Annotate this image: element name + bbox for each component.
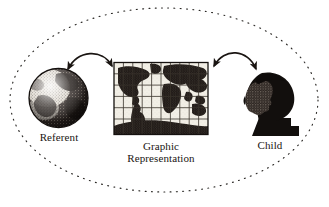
diagram-canvas: Referent Graphic Representation Child (0, 0, 329, 207)
arrow-map-to-child (214, 53, 256, 69)
node-label-graphic-representation: Graphic Representation (113, 140, 209, 164)
diagram-graphics (0, 0, 329, 207)
child-head-silhouette-icon (244, 72, 300, 136)
node-label-referent: Referent (16, 131, 102, 143)
world-map-grid-icon (114, 63, 208, 136)
globe-earth-icon (26, 69, 88, 128)
node-label-child: Child (230, 139, 310, 151)
arrow-referent-to-map (68, 54, 112, 69)
node-label-graphic-line-2: Representation (113, 152, 209, 164)
node-label-graphic-line-1: Graphic (113, 140, 209, 152)
